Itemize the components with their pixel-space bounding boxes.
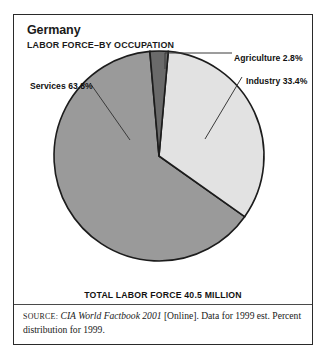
pie-label-agriculture: Agriculture 2.8%	[234, 53, 303, 63]
source-divider	[14, 304, 312, 305]
figure-frame: Germany LABOR FORCE–BY OCCUPATION Servic…	[13, 14, 313, 345]
source-label: SOURCE:	[23, 312, 58, 321]
pie-label-services: Services 63.8%	[30, 81, 93, 91]
total-labor-force-caption: TOTAL LABOR FORCE 40.5 MILLION	[14, 290, 312, 300]
source-note: SOURCE: CIA World Factbook 2001 [Online]…	[23, 309, 304, 336]
source-work-title: CIA World Factbook 2001	[60, 310, 161, 321]
pie-label-industry: Industry 33.4%	[246, 76, 307, 86]
